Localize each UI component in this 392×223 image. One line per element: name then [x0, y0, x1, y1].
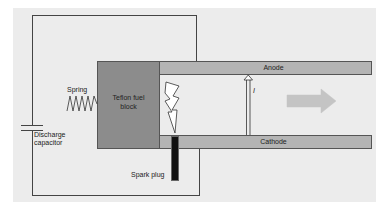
thrust-arrow-icon [287, 89, 336, 113]
current-arrow-icon [244, 75, 253, 135]
diagram-shapes [0, 0, 392, 223]
spring-icon [67, 96, 97, 111]
lightning-bolt-icon [165, 82, 179, 133]
